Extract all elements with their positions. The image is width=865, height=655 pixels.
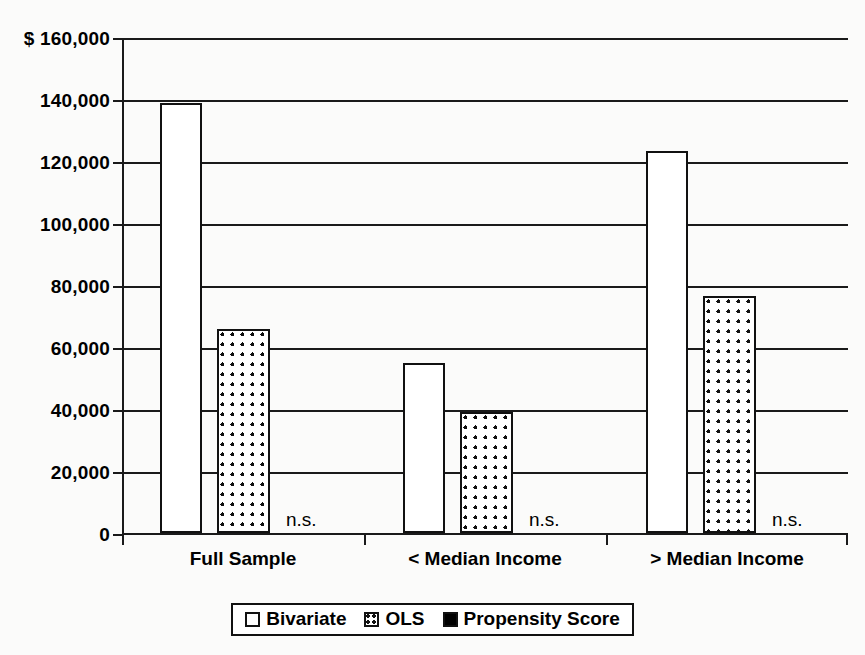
y-tick-label: 120,000	[0, 152, 110, 174]
gridline-100000	[122, 224, 848, 226]
x-tick-label-above-median: > Median Income	[606, 548, 848, 570]
y-tick-mark	[113, 38, 122, 40]
y-tick-mark	[113, 100, 122, 102]
legend-swatch-white-square-icon	[245, 612, 260, 627]
bar-above-median-ols[interactable]	[703, 296, 756, 533]
bar-below-median-bivariate[interactable]	[403, 363, 445, 533]
bar-full-sample-ols[interactable]	[217, 329, 270, 533]
legend-label-propensity-score: Propensity Score	[464, 608, 620, 630]
x-tick-mark	[122, 535, 124, 545]
legend-item-propensity-score[interactable]: Propensity Score	[443, 608, 620, 630]
y-tick-label: $ 160,000	[0, 28, 110, 50]
bar-full-sample-bivariate[interactable]	[160, 103, 202, 533]
legend-label-ols: OLS	[385, 608, 424, 630]
ns-label-below-median-propensity: n.s.	[529, 509, 560, 531]
y-tick-mark	[113, 224, 122, 226]
bar-below-median-ols[interactable]	[460, 412, 513, 533]
y-tick-mark	[113, 162, 122, 164]
y-tick-label: 0	[0, 524, 110, 546]
y-tick-label: 20,000	[0, 462, 110, 484]
x-axis-labels: Full Sample < Median Income > Median Inc…	[122, 548, 848, 578]
legend-item-ols[interactable]: OLS	[364, 608, 424, 630]
y-tick-label: 140,000	[0, 90, 110, 112]
gridline-140000	[122, 100, 848, 102]
bar-above-median-bivariate[interactable]	[646, 151, 688, 533]
plot-area: n.s. n.s. n.s.	[122, 38, 848, 533]
legend: Bivariate OLS Propensity Score	[0, 603, 865, 636]
ns-label-above-median-propensity: n.s.	[772, 509, 803, 531]
x-tick-label-below-median: < Median Income	[364, 548, 606, 570]
y-tick-label: 60,000	[0, 338, 110, 360]
legend-swatch-dotted-square-icon	[364, 612, 379, 627]
y-tick-mark	[113, 286, 122, 288]
y-axis-labels: $ 160,000 140,000 120,000 100,000 80,000…	[0, 0, 110, 655]
y-tick-mark	[113, 410, 122, 412]
gridline-120000	[122, 162, 848, 164]
x-axis-ticks	[122, 535, 848, 547]
legend-swatch-black-square-icon	[443, 612, 458, 627]
y-tick-label: 100,000	[0, 214, 110, 236]
y-tick-mark	[113, 348, 122, 350]
gridline-80000	[122, 286, 848, 288]
y-tick-mark	[113, 534, 122, 536]
legend-item-bivariate[interactable]: Bivariate	[245, 608, 346, 630]
y-tick-mark	[113, 472, 122, 474]
y-tick-label: 40,000	[0, 400, 110, 422]
x-tick-label-full-sample: Full Sample	[122, 548, 364, 570]
x-tick-mark	[364, 535, 366, 545]
legend-box: Bivariate OLS Propensity Score	[231, 603, 634, 636]
gridline-160000	[122, 38, 848, 40]
x-tick-mark	[606, 535, 608, 545]
chart-figure: $ 160,000 140,000 120,000 100,000 80,000…	[0, 0, 865, 655]
ns-label-full-sample-propensity: n.s.	[286, 509, 317, 531]
legend-label-bivariate: Bivariate	[266, 608, 346, 630]
x-tick-mark	[846, 535, 848, 545]
y-tick-label: 80,000	[0, 276, 110, 298]
